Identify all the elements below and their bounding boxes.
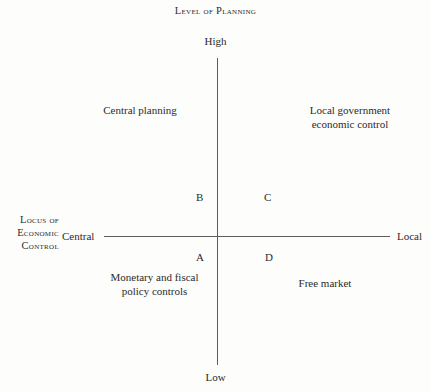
quadrant-lower-left-line1: Monetary and fiscal <box>103 271 206 285</box>
axis-label-low: Low <box>0 371 431 385</box>
quadrant-label-local-government-economic-control: Local government economic control <box>303 104 397 131</box>
quadrant-upper-right-line2: economic control <box>303 118 397 132</box>
point-marker-b: B <box>196 191 203 205</box>
vertical-axis-level-of-planning <box>217 58 218 365</box>
planning-control-quadrant-diagram: Level of Planning High Low Locus of Econ… <box>0 0 431 392</box>
point-marker-a: A <box>196 251 204 265</box>
quadrant-lower-right-line1: Free market <box>283 277 367 291</box>
horizontal-axis-title-line2: Economic <box>2 226 59 239</box>
quadrant-lower-left-line2: policy controls <box>103 285 206 299</box>
horizontal-axis-locus-of-economic-control <box>104 236 390 237</box>
diagram-title: Level of Planning <box>0 4 431 18</box>
axis-label-high: High <box>0 35 431 49</box>
quadrant-upper-left-line1: Central planning <box>97 104 183 118</box>
horizontal-axis-title: Locus of Economic Control <box>2 213 59 252</box>
quadrant-label-free-market: Free market <box>283 277 367 291</box>
axis-label-local: Local <box>397 230 422 244</box>
axis-label-central: Central <box>62 230 94 244</box>
point-marker-c: C <box>264 191 271 205</box>
quadrant-upper-right-line1: Local government <box>303 104 397 118</box>
point-marker-d: D <box>265 251 273 265</box>
quadrant-label-central-planning: Central planning <box>97 104 183 118</box>
horizontal-axis-title-line1: Locus of <box>2 213 59 226</box>
horizontal-axis-title-line3: Control <box>2 239 59 252</box>
quadrant-label-monetary-and-fiscal-policy-controls: Monetary and fiscal policy controls <box>103 271 206 298</box>
